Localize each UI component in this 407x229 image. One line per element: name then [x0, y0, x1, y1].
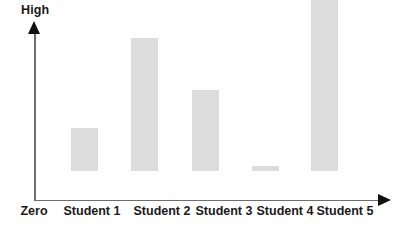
bar-5: [311, 0, 338, 171]
bar-3: [192, 90, 219, 171]
x-axis-tick-labels: ZeroStudent 1Student 2Student 3Student 4…: [0, 204, 407, 224]
plot-area: [0, 0, 407, 200]
x-axis-tick-label-5: Student 5: [300, 204, 390, 218]
bar-chart: High Knowledge of the event ZeroStudent …: [0, 0, 407, 229]
bar-4: [252, 166, 279, 171]
bar-2: [131, 38, 158, 171]
bar-1: [71, 128, 98, 171]
